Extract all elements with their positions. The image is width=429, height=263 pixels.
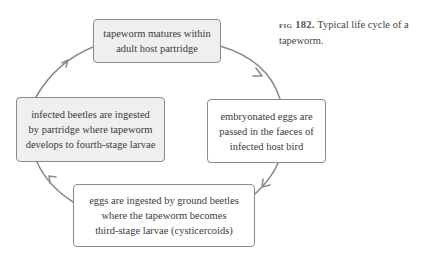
- arrowhead-up-left-icon: [49, 176, 56, 183]
- life-cycle-figure: tapeworm matures within adult host partr…: [0, 0, 429, 263]
- stage-box-eggs-in-faeces: embryonated eggs are passed in the faece…: [207, 99, 326, 163]
- stage-text-line: tapeworm matures within: [103, 26, 210, 41]
- stage-text-line: where the tapeworm becomes: [89, 208, 239, 223]
- stage-box-beetles-ingested-by-partridge: infected beetles are ingested by partrid…: [16, 97, 165, 162]
- stage-text-line: embryonated eggs are: [219, 109, 313, 124]
- arc-right-to-bottom: [255, 163, 278, 194]
- arrowhead-down-right-icon: [253, 68, 262, 76]
- stage-text-line: third-stage larvae (cysticercoids): [89, 223, 239, 238]
- stage-text-line: eggs are ingested by ground beetles: [89, 193, 239, 208]
- stage-box-eggs-ingested-by-beetles: eggs are ingested by ground beetles wher…: [73, 184, 255, 247]
- stage-box-adult-in-partridge: tapeworm matures within adult host partr…: [93, 19, 221, 63]
- figure-caption: fig 182. Typical life cycle of a tapewor…: [279, 17, 429, 49]
- arc-bottom-to-left: [37, 162, 73, 202]
- figure-label: fig 182.: [279, 19, 315, 30]
- stage-text-line: develops to fourth-stage larvae: [26, 137, 156, 152]
- stage-text-line: infected host bird: [219, 139, 313, 154]
- arc-top-to-right: [220, 46, 280, 99]
- stage-text-line: adult host partridge: [103, 41, 210, 56]
- arc-left-to-top: [36, 47, 93, 97]
- stage-text-line: by partridge where tapeworm: [26, 122, 156, 137]
- stage-text-line: passed in the faeces of: [219, 124, 313, 139]
- stage-text-line: infected beetles are ingested: [26, 107, 156, 122]
